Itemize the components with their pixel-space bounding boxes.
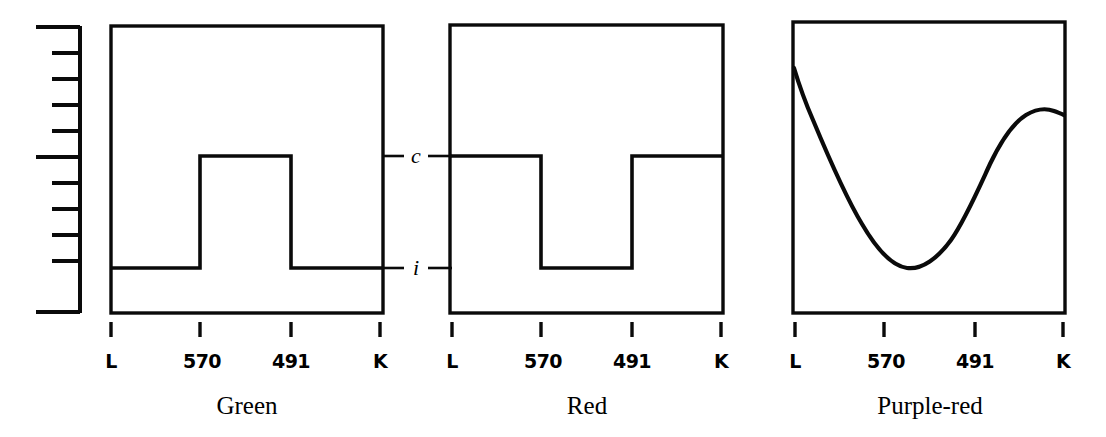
panel-green-x-tick-label-2: 491 [272,350,310,372]
y-axis-ruler [36,26,80,313]
panel-green-x-tick-label-3: K [373,350,389,372]
panel-red-x-tick-label-0: L [446,350,458,372]
panel-green-x-tick-label-1: 570 [183,350,221,372]
level-label-c: c [411,143,421,168]
panel-green-plot-frame [111,26,383,313]
panel-red: L 570 491 K Red [446,25,730,419]
figure-container: L 570 491 K Green c i L 570 [0,0,1106,437]
panel-purple-red-x-tick-label-2: 491 [956,350,994,372]
panel-red-caption: Red [567,392,608,419]
panel-green-caption: Green [216,392,278,419]
panel-green: L 570 491 K Green [105,26,389,419]
panel-purple-red: L 570 491 K Purple-red [789,22,1072,419]
panel-purple-red-x-tick-label-3: K [1056,350,1072,372]
panel-green-x-tick-label-0: L [105,350,117,372]
panel-red-x-tick-label-1: 570 [524,350,562,372]
level-annotations [383,156,452,268]
panel-purple-red-caption: Purple-red [877,392,983,419]
spectral-response-figure: L 570 491 K Green c i L 570 [0,0,1106,437]
panel-red-trace [450,156,723,268]
panel-red-x-tick-label-2: 491 [613,350,651,372]
panel-green-trace [111,156,383,268]
panel-purple-red-x-tick-label-1: 570 [867,350,905,372]
panel-red-x-tick-label-3: K [714,350,730,372]
panel-purple-red-trace [794,68,1064,268]
panel-red-x-ticks [452,322,721,337]
panel-purple-red-x-ticks [795,322,1063,337]
panel-green-x-ticks [111,322,380,337]
level-label-i: i [413,255,419,280]
panel-purple-red-x-tick-label-0: L [789,350,801,372]
